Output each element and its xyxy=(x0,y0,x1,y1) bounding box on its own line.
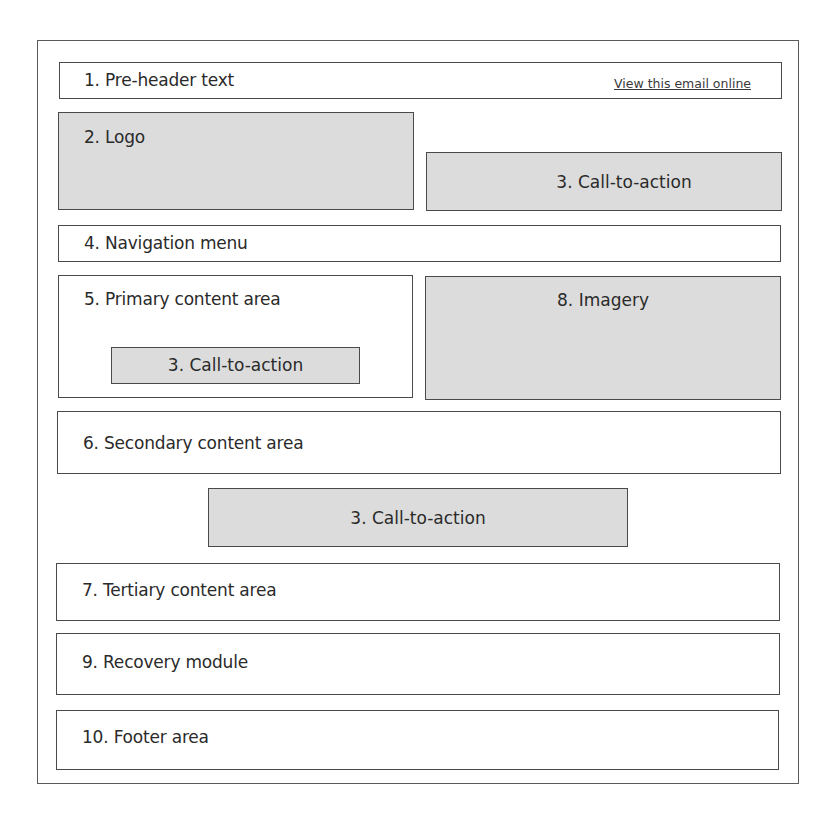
tertiary-content-label: 7. Tertiary content area xyxy=(82,580,276,600)
cta-middle-label: 3. Call-to-action xyxy=(209,508,627,528)
navigation-section: 4. Navigation menu xyxy=(58,225,781,262)
cta-header-label: 3. Call-to-action xyxy=(427,172,781,192)
logo-label: 2. Logo xyxy=(84,127,145,147)
secondary-content-label: 6. Secondary content area xyxy=(83,433,303,453)
primary-content-section: 5. Primary content area 3. Call-to-actio… xyxy=(58,275,413,398)
cta-middle-button[interactable]: 3. Call-to-action xyxy=(208,488,628,547)
primary-content-label: 5. Primary content area xyxy=(84,289,281,309)
recovery-module-section: 9. Recovery module xyxy=(56,633,780,695)
footer-section: 10. Footer area xyxy=(56,710,779,770)
imagery-label: 8. Imagery xyxy=(426,290,780,310)
secondary-content-section: 6. Secondary content area xyxy=(57,411,781,474)
imagery-section: 8. Imagery xyxy=(425,276,781,400)
tertiary-content-section: 7. Tertiary content area xyxy=(56,563,780,621)
navigation-label: 4. Navigation menu xyxy=(84,233,248,253)
footer-label: 10. Footer area xyxy=(82,727,209,747)
cta-primary-label: 3. Call-to-action xyxy=(112,355,359,375)
preheader-section: 1. Pre-header text View this email onlin… xyxy=(59,62,782,99)
preheader-label: 1. Pre-header text xyxy=(84,70,234,90)
recovery-module-label: 9. Recovery module xyxy=(82,652,248,672)
cta-header-button[interactable]: 3. Call-to-action xyxy=(426,152,782,211)
cta-primary-button[interactable]: 3. Call-to-action xyxy=(111,347,360,384)
logo-section: 2. Logo xyxy=(58,112,414,210)
view-online-link[interactable]: View this email online xyxy=(614,76,751,91)
